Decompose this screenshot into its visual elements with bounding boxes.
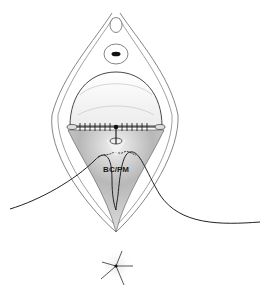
star-closure-icon [100,249,134,285]
region-label: BC/PM [103,165,129,174]
dark-center-dot [112,52,121,57]
dome [70,72,162,126]
top-small-ellipse [110,18,122,33]
surgical-diagram: BC/PM [0,0,263,291]
